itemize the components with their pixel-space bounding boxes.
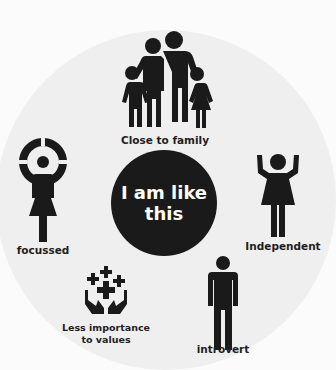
label-values-line1: Less importance — [60, 322, 152, 334]
label-less-importance-to-values: Less importance to values — [60, 322, 152, 346]
center-title-line1: I am like — [121, 182, 207, 203]
label-close-to-family: Close to family — [115, 134, 215, 146]
standing-man-icon — [207, 255, 239, 351]
label-focussed: focussed — [8, 244, 78, 256]
label-introvert: introvert — [190, 343, 256, 355]
center-circle: I am like this — [111, 150, 217, 256]
target-person-icon — [17, 136, 69, 244]
hands-plus-icon — [83, 266, 129, 314]
center-title-line2: this — [145, 203, 183, 224]
label-independent: Independent — [238, 240, 328, 252]
family-icon — [115, 28, 215, 128]
label-values-line2: to values — [60, 334, 152, 346]
cheering-woman-icon — [253, 153, 303, 239]
